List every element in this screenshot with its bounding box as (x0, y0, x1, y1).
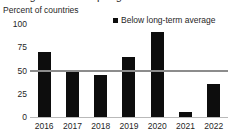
x-tick-label: 2020 (143, 121, 171, 132)
bar (94, 75, 107, 117)
y-axis-tick-labels: 100 75 50 25 0 (0, 24, 27, 117)
bar (207, 84, 220, 117)
x-tick-label: 2016 (30, 121, 58, 132)
x-tick-label: 2022 (200, 121, 228, 132)
plot-area (30, 24, 228, 117)
y-tick-label: 75 (1, 42, 27, 52)
x-tick-label: 2019 (115, 121, 143, 132)
bar (66, 71, 79, 118)
bar (122, 57, 135, 117)
y-axis-title: Percent of countries (3, 5, 79, 15)
cropped-title-text: Agricultural output growth (22, 0, 149, 2)
x-tick-label: 2017 (58, 121, 86, 132)
y-tick-label: 25 (1, 89, 27, 99)
filled-square-marker-icon (113, 18, 118, 23)
bar (151, 32, 164, 117)
bar (38, 52, 51, 117)
y-tick-label: 100 (1, 19, 27, 29)
x-tick-label: 2018 (87, 121, 115, 132)
chart-container: Agricultural output growth Percent of co… (0, 0, 230, 139)
x-axis-baseline (30, 117, 228, 118)
reference-line (30, 70, 228, 72)
x-tick-label: 2021 (171, 121, 199, 132)
x-axis-tick-labels: 2016 2017 2018 2019 2020 2021 2022 (30, 121, 228, 132)
y-tick-label: 50 (1, 66, 27, 76)
y-tick-label: 0 (1, 112, 27, 122)
